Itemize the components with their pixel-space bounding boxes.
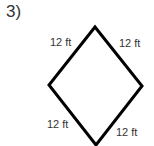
side-label-bottom-right: 12 ft: [116, 127, 137, 138]
side-label-bottom-left: 12 ft: [47, 119, 68, 130]
rhombus-diagram: [0, 0, 154, 146]
side-label-top-left: 12 ft: [50, 37, 71, 48]
side-label-top-right: 12 ft: [119, 38, 140, 49]
